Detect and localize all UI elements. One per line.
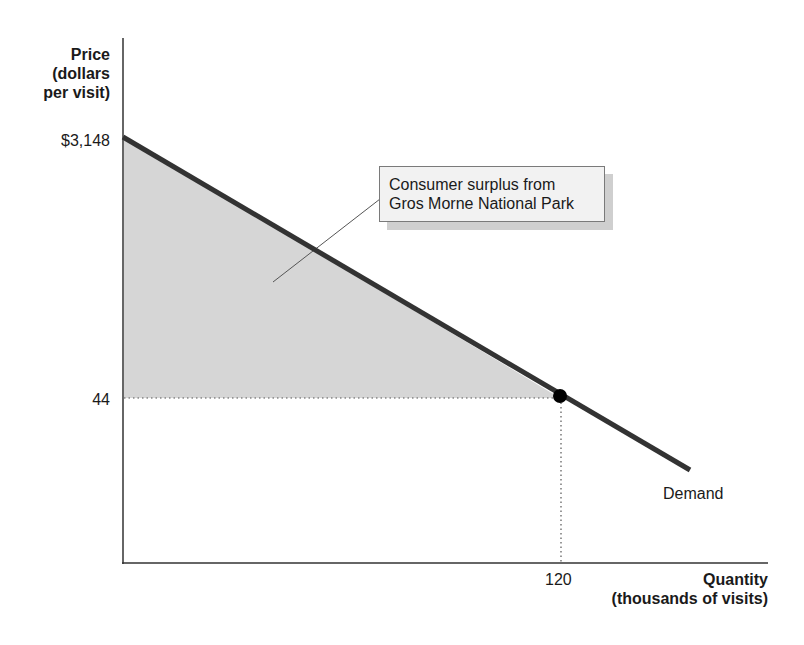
consumer-surplus-callout: Consumer surplus from Gros Morne Nationa… (379, 166, 605, 222)
y-tick-price: 44 (0, 390, 110, 409)
x-axis-title: Quantity (thousands of visits) (560, 570, 768, 608)
y-axis-title-line: Price (0, 45, 110, 64)
x-axis-title-line: (thousands of visits) (560, 589, 768, 608)
equilibrium-point (553, 389, 567, 403)
chart-canvas (0, 0, 804, 645)
callout-text-line: Consumer surplus from (389, 175, 595, 194)
demand-label: Demand (663, 484, 723, 503)
y-axis-title-line: (dollars (0, 64, 110, 83)
y-axis-title-line: per visit) (0, 83, 110, 102)
y-axis-title: Price (dollars per visit) (0, 45, 110, 102)
y-tick-top: $3,148 (0, 131, 110, 150)
x-axis-title-line: Quantity (560, 570, 768, 589)
callout-text-line: Gros Morne National Park (389, 194, 595, 213)
